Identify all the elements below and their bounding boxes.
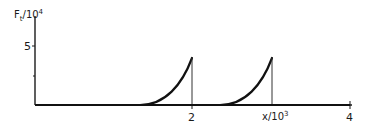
force-chart: 5 2 4 Ft/104 x/103 xyxy=(0,0,368,130)
x-axis-label: x/103 xyxy=(262,110,288,122)
series-ft-pulse-2 xyxy=(220,58,272,105)
x-tick-label-2: 2 xyxy=(188,111,195,124)
x-tick-label-4: 4 xyxy=(346,111,353,124)
series-ft-pulse-1 xyxy=(140,58,192,105)
y-tick-label-5: 5 xyxy=(24,40,31,53)
y-axis-label: Ft/104 xyxy=(14,8,44,23)
